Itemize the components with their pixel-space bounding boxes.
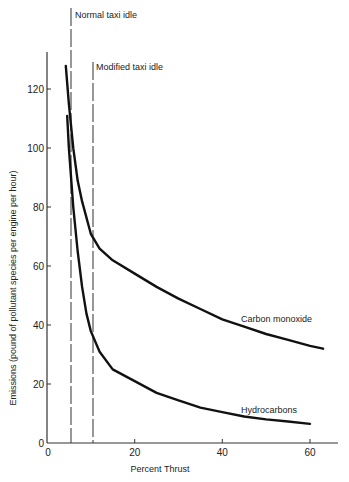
carbon-monoxide-label: Carbon monoxide [241,314,312,324]
xtick-20: 20 [129,447,141,458]
hydrocarbons-label: Hydrocarbons [241,405,298,415]
ytick-100: 100 [27,143,44,154]
carbon-monoxide-curve [66,66,323,349]
normal-taxi-idle-label: Normal taxi idle [75,10,137,20]
x-axis-label: Percent Thrust [131,464,190,474]
xtick-60: 60 [304,447,316,458]
hydrocarbons-curve [67,116,310,424]
ytick-40: 40 [33,320,45,331]
chart: 0 20 40 60 80 100 120 0 20 40 60 Percent… [0,0,349,482]
ytick-120: 120 [27,84,44,95]
modified-taxi-idle-label: Modified taxi idle [96,62,163,72]
ytick-80: 80 [33,202,45,213]
xtick-0: 0 [45,447,51,458]
xtick-40: 40 [217,447,229,458]
ytick-20: 20 [33,379,45,390]
ytick-60: 60 [33,261,45,272]
y-axis-label: Emissions (pound of pollutant species pe… [8,170,18,405]
ytick-0: 0 [38,438,44,449]
